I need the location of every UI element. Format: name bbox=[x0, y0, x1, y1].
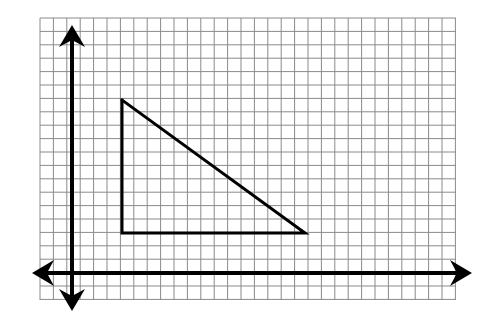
coordinate-plane-figure bbox=[0, 0, 491, 333]
figure-canvas bbox=[0, 0, 491, 333]
